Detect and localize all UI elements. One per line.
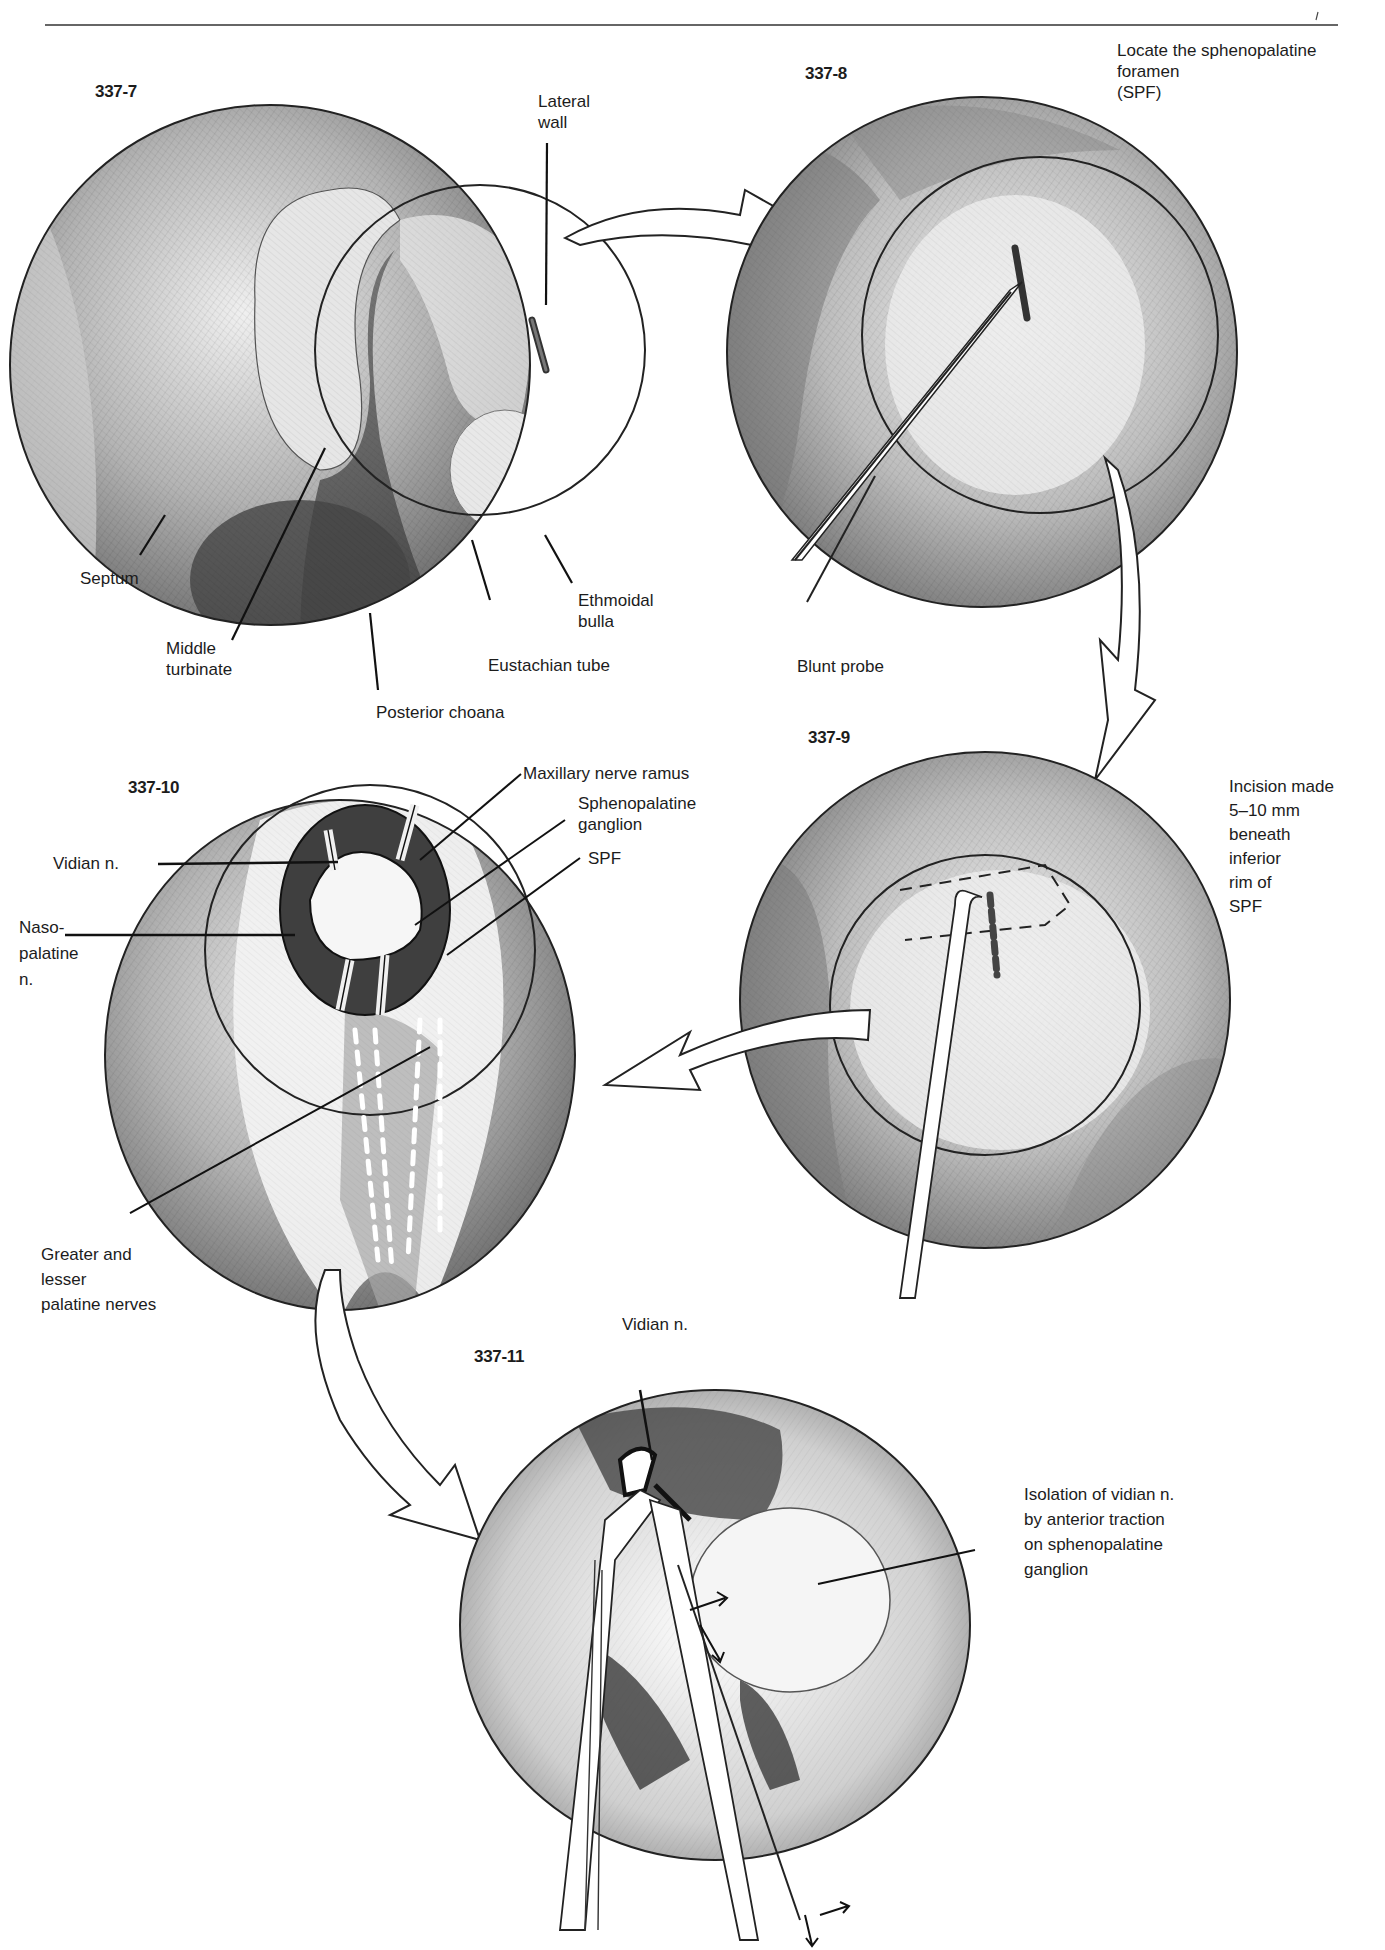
- label-sphenopalatine-ganglion: Sphenopalatine ganglion: [578, 793, 696, 835]
- label-vidian-n-11: Vidian n.: [622, 1314, 688, 1335]
- label-posterior-choana: Posterior choana: [376, 702, 505, 723]
- figure-number-337-7: 337-7: [95, 82, 137, 102]
- figure-337-8-view: [720, 90, 1240, 610]
- flow-arrow-10-to-11: [315, 1270, 480, 1540]
- label-ethmoidal-bulla: Ethmoidal bulla: [578, 590, 654, 632]
- figure-number-337-8: 337-8: [805, 64, 847, 84]
- figure-337-11-view: [460, 1390, 980, 1946]
- label-vidian-n: Vidian n.: [53, 853, 119, 874]
- figure-number-337-9: 337-9: [808, 728, 850, 748]
- illustration-page: 337-7 337-8 337-9 337-10 337-11 Lateral …: [0, 0, 1385, 1950]
- figure-337-7-view: [0, 100, 645, 690]
- label-blunt-probe: Blunt probe: [797, 656, 884, 677]
- figure-number-337-10: 337-10: [128, 778, 179, 798]
- label-maxillary-nerve-ramus: Maxillary nerve ramus: [523, 763, 689, 784]
- label-greater-lesser-palatine-nerves: Greater and lesser palatine nerves: [41, 1242, 156, 1317]
- label-lateral-wall: Lateral wall: [538, 91, 590, 133]
- figure-number-337-11: 337-11: [474, 1347, 524, 1367]
- label-middle-turbinate: Middle turbinate: [166, 638, 232, 680]
- caption-isolation-vidian: Isolation of vidian n. by anterior tract…: [1024, 1482, 1174, 1582]
- label-eustachian-tube: Eustachian tube: [488, 655, 610, 676]
- label-septum: Septum: [80, 568, 139, 589]
- label-spf: SPF: [588, 848, 621, 869]
- surgical-illustration: [0, 0, 1385, 1950]
- caption-incision: Incision made 5–10 mm beneath inferior r…: [1229, 775, 1334, 919]
- label-nasopalatine-n: Naso- palatine n.: [19, 915, 79, 993]
- caption-locate-spf: Locate the sphenopalatine foramen (SPF): [1117, 40, 1316, 103]
